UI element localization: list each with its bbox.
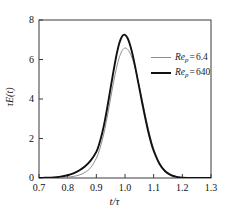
plot-border xyxy=(39,20,211,178)
legend-label-0-value: 6.4 xyxy=(196,52,208,62)
plot-frame xyxy=(39,20,211,178)
legend-label-0-sub: p xyxy=(185,56,189,64)
y-tick-label: 6 xyxy=(20,55,34,65)
legend-label-0: Rep=6.4 xyxy=(175,53,208,63)
legend-label-1-base: Re xyxy=(175,67,185,77)
x-tick-label: 0.9 xyxy=(83,183,109,193)
x-tick-label: 0.7 xyxy=(26,183,52,193)
axis-ticks xyxy=(39,20,211,178)
x-tick-label: 0.8 xyxy=(55,183,81,193)
y-tick-label: 4 xyxy=(20,94,34,104)
chart-figure: τE(t) t/τ Rep=6.4 Rep=640 024680.70.80.9… xyxy=(0,0,229,214)
x-axis-label: t/τ xyxy=(0,196,229,207)
x-tick-label: 1.3 xyxy=(198,183,224,193)
legend-swatch-0 xyxy=(151,57,171,58)
legend-label-1: Rep=640 xyxy=(175,68,210,78)
legend-label-1-sub: p xyxy=(185,71,189,79)
legend-swatch-1 xyxy=(151,72,171,74)
y-tick-label: 0 xyxy=(20,173,34,183)
legend-label-1-value: 640 xyxy=(196,67,210,77)
legend-label-0-base: Re xyxy=(175,52,185,62)
y-axis-label: τE(t) xyxy=(5,75,15,119)
x-tick-label: 1.0 xyxy=(112,183,138,193)
y-tick-label: 8 xyxy=(20,15,34,25)
legend-entry-0: Rep=6.4 xyxy=(151,53,208,63)
y-tick-label: 2 xyxy=(20,134,34,144)
legend-label-1-equals: = xyxy=(189,67,196,77)
legend-entry-1: Rep=640 xyxy=(151,68,210,78)
x-tick-label: 1.1 xyxy=(141,183,167,193)
x-tick-label: 1.2 xyxy=(169,183,195,193)
legend-label-0-equals: = xyxy=(189,52,196,62)
